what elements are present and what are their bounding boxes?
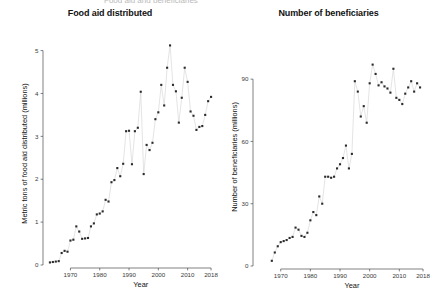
- x-axis-tick-label: 1980: [303, 272, 317, 279]
- y-axis-tick-label: 2: [35, 175, 39, 182]
- data-point: [102, 210, 104, 212]
- data-point: [309, 219, 311, 221]
- data-point: [357, 91, 359, 93]
- data-point: [122, 163, 124, 165]
- data-point: [277, 245, 279, 247]
- data-point: [274, 251, 276, 253]
- data-point: [312, 211, 314, 213]
- data-point: [160, 84, 162, 86]
- data-point: [172, 84, 174, 86]
- data-point: [64, 250, 66, 252]
- data-point: [154, 118, 156, 120]
- data-point: [55, 261, 57, 263]
- data-point: [300, 235, 302, 237]
- data-point: [69, 240, 71, 242]
- data-point: [137, 127, 139, 129]
- data-point: [201, 125, 203, 127]
- x-axis-tick-label: 2000: [363, 272, 377, 279]
- data-point: [294, 227, 296, 229]
- y-axis-tick-label: 1: [35, 218, 39, 225]
- data-point: [87, 237, 89, 239]
- x-axis-tick-label: 1990: [333, 272, 347, 279]
- data-point: [169, 44, 171, 46]
- series-connector-line: [272, 65, 420, 261]
- data-point: [407, 86, 409, 88]
- data-point: [175, 90, 177, 92]
- x-axis-title: Year: [344, 281, 359, 290]
- y-axis-tick-label: 4: [35, 90, 39, 97]
- data-point: [383, 85, 385, 87]
- data-point: [151, 142, 153, 144]
- data-point: [84, 237, 86, 239]
- data-point: [333, 176, 335, 178]
- data-point: [398, 99, 400, 101]
- data-point: [81, 238, 83, 240]
- data-point: [204, 114, 206, 116]
- series-connector-line: [50, 45, 211, 262]
- data-point: [392, 68, 394, 70]
- data-point: [283, 240, 285, 242]
- data-point: [369, 82, 371, 84]
- x-axis-tick-label: 1970: [274, 272, 288, 279]
- data-point: [49, 261, 51, 263]
- data-point: [354, 80, 356, 82]
- data-point: [286, 239, 288, 241]
- data-point: [303, 236, 305, 238]
- x-axis-tick-label: 1990: [122, 271, 136, 278]
- data-point: [61, 252, 63, 254]
- data-point: [113, 179, 115, 181]
- data-point: [192, 115, 194, 117]
- data-point: [321, 203, 323, 205]
- data-point: [72, 239, 74, 241]
- data-point: [372, 64, 374, 66]
- data-point: [378, 84, 380, 86]
- data-point: [416, 82, 418, 84]
- data-point: [181, 97, 183, 99]
- x-axis-tick-label: 2018: [204, 271, 218, 278]
- data-point: [351, 153, 353, 155]
- data-point: [116, 167, 118, 169]
- y-axis-title: Metric tons of food aid distributed (mil…: [20, 83, 29, 223]
- data-point: [210, 96, 212, 98]
- data-point: [318, 195, 320, 197]
- data-point: [131, 163, 133, 165]
- data-point: [292, 236, 294, 238]
- data-point: [93, 222, 95, 224]
- x-axis-title: Year: [133, 280, 148, 289]
- data-point: [345, 145, 347, 147]
- data-point: [143, 173, 145, 175]
- data-point: [297, 229, 299, 231]
- x-axis-tick-label: 2010: [181, 271, 195, 278]
- data-point: [166, 67, 168, 69]
- data-point: [207, 100, 209, 102]
- panel-number-of-beneficiaries: Number of beneficiaries 0306090197019801…: [220, 0, 437, 302]
- figure-container: Food aid and beneficiaries Food aid dist…: [0, 0, 437, 302]
- data-point: [99, 212, 101, 214]
- data-point: [271, 260, 273, 262]
- data-point: [395, 97, 397, 99]
- x-axis-tick-label: 2000: [151, 271, 165, 278]
- data-point: [134, 130, 136, 132]
- data-point: [78, 231, 80, 233]
- data-point: [401, 103, 403, 105]
- data-point: [146, 144, 148, 146]
- data-point: [327, 176, 329, 178]
- data-point: [330, 177, 332, 179]
- data-point: [419, 86, 421, 88]
- data-point: [96, 213, 98, 215]
- data-point: [178, 122, 180, 124]
- x-axis-tick-label: 2018: [416, 272, 430, 279]
- scatter-plot-beneficiaries: 0306090197019801990200020102018YearNumbe…: [220, 0, 437, 302]
- data-point: [75, 225, 77, 227]
- data-point: [324, 176, 326, 178]
- y-axis-tick-label: 0: [245, 262, 249, 269]
- y-axis-tick-label: 30: [242, 200, 249, 207]
- data-point: [90, 225, 92, 227]
- data-point: [198, 126, 200, 128]
- y-axis-tick-label: 5: [35, 47, 39, 54]
- data-point: [289, 237, 291, 239]
- data-point: [386, 87, 388, 89]
- data-point: [375, 73, 377, 75]
- data-point: [110, 181, 112, 183]
- data-point: [413, 91, 415, 93]
